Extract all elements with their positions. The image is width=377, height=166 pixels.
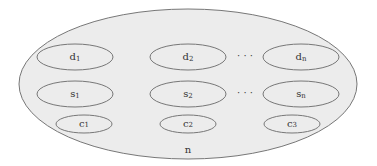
ellipsis-d: · · · xyxy=(237,50,253,61)
ellipsis-s: · · · xyxy=(237,87,253,98)
outer-ellipse-n xyxy=(19,9,357,159)
set-diagram: d1 d2 · · · dn s1 s2 · · · sn c1 c2 c3 n xyxy=(0,0,377,166)
outer-label-n: n xyxy=(185,144,192,155)
